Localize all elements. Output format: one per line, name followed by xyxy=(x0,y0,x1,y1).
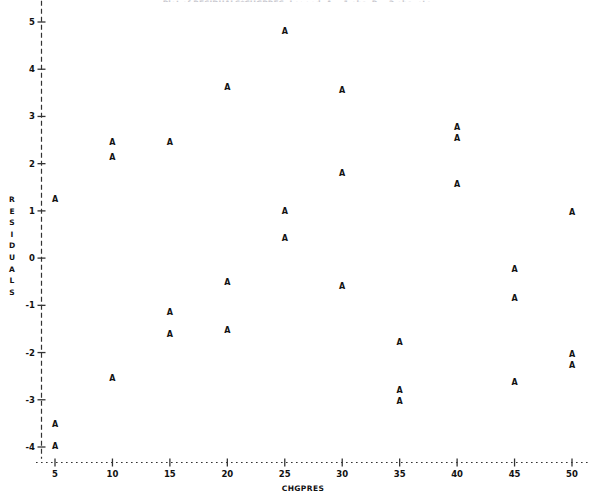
data-point-marker: A xyxy=(397,398,403,406)
data-point-marker: A xyxy=(511,266,517,274)
data-point-marker: A xyxy=(569,362,575,370)
data-point-marker: A xyxy=(52,443,58,451)
data-point-marker: A xyxy=(224,84,230,92)
y-tick-label: 4 xyxy=(29,64,35,74)
y-axis-title-char: S xyxy=(9,287,14,299)
y-tick-label: 5 xyxy=(29,17,35,27)
data-point-marker: A xyxy=(282,28,288,36)
axis-lines xyxy=(0,0,597,504)
data-point-marker: A xyxy=(224,327,230,335)
x-tick-label: 35 xyxy=(394,469,406,479)
data-point-marker: A xyxy=(339,283,345,291)
y-axis-title-char: E xyxy=(9,205,14,217)
y-tick-label: -3 xyxy=(26,395,35,405)
data-point-marker: A xyxy=(339,87,345,95)
y-tick-label: 3 xyxy=(29,111,35,121)
data-point-marker: A xyxy=(339,170,345,178)
x-axis-title: CHGPRES xyxy=(282,484,325,493)
data-point-marker: A xyxy=(224,279,230,287)
data-point-marker: A xyxy=(167,309,173,317)
y-axis-title-char: A xyxy=(9,263,15,275)
data-point-marker: A xyxy=(454,135,460,143)
x-tick-label: 20 xyxy=(221,469,233,479)
data-point-marker: A xyxy=(511,379,517,387)
x-tick-label: 30 xyxy=(336,469,348,479)
data-point-marker: A xyxy=(52,421,58,429)
data-point-marker: A xyxy=(109,154,115,162)
data-point-marker: A xyxy=(511,295,517,303)
y-tick-label: 0 xyxy=(29,253,35,263)
data-point-marker: A xyxy=(454,124,460,132)
data-point-marker: A xyxy=(397,339,403,347)
x-tick-label: 5 xyxy=(52,469,58,479)
x-tick-label: 25 xyxy=(279,469,291,479)
data-point-marker: A xyxy=(167,139,173,147)
x-tick-label: 45 xyxy=(509,469,521,479)
y-tick-label: -4 xyxy=(26,442,35,452)
y-axis-title-char: S xyxy=(9,217,14,229)
y-tick-label: -1 xyxy=(26,300,35,310)
scatter-plot-canvas: Plot of RESIDUALS*CHGPRES. Legend: A = 1… xyxy=(0,0,597,504)
data-point-marker: A xyxy=(569,209,575,217)
x-tick-label: 50 xyxy=(566,469,578,479)
x-tick-label: 10 xyxy=(107,469,119,479)
data-point-marker: A xyxy=(282,208,288,216)
y-axis-title-char: L xyxy=(10,275,15,287)
data-point-marker: A xyxy=(397,387,403,395)
data-point-marker: A xyxy=(109,139,115,147)
x-tick-label: 15 xyxy=(164,469,176,479)
data-point-marker: A xyxy=(52,196,58,204)
data-point-marker: A xyxy=(454,181,460,189)
y-tick-label: -2 xyxy=(26,348,35,358)
y-axis-title: RESIDUALS xyxy=(9,194,15,298)
y-axis-title-char: I xyxy=(11,229,14,241)
data-point-marker: A xyxy=(167,331,173,339)
y-tick-label: 1 xyxy=(29,206,35,216)
x-tick-label: 40 xyxy=(451,469,463,479)
data-point-marker: A xyxy=(569,351,575,359)
data-point-marker: A xyxy=(282,235,288,243)
y-axis-title-char: R xyxy=(9,194,15,206)
data-point-marker: A xyxy=(109,375,115,383)
y-tick-label: 2 xyxy=(29,159,35,169)
y-axis-title-char: U xyxy=(9,252,15,264)
y-axis-title-char: D xyxy=(9,240,15,252)
